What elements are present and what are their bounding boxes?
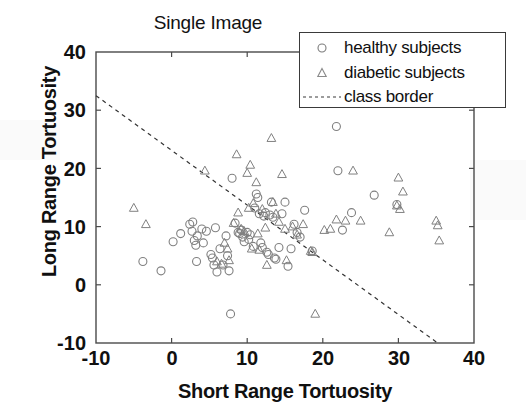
data-point-diabetic <box>267 134 276 142</box>
data-point-healthy <box>264 251 272 259</box>
data-point-healthy <box>192 241 200 249</box>
data-point-diabetic <box>252 178 261 186</box>
data-point-healthy <box>222 232 230 240</box>
data-point-healthy <box>278 210 286 218</box>
legend: healthy subjects diabetic subjects class… <box>299 32 506 108</box>
legend-entry-healthy[interactable]: healthy subjects <box>300 35 505 60</box>
data-point-healthy <box>338 226 346 234</box>
data-point-healthy <box>301 206 309 214</box>
data-point-healthy <box>199 239 207 247</box>
data-point-healthy <box>348 209 356 217</box>
data-point-diabetic <box>261 223 270 231</box>
data-point-healthy <box>275 244 283 252</box>
legend-entry-class-border[interactable]: class border <box>300 84 505 109</box>
data-point-healthy <box>227 310 235 318</box>
legend-label-class-border: class border <box>344 88 433 105</box>
data-point-healthy <box>188 227 196 235</box>
data-point-diabetic <box>232 150 241 158</box>
data-point-healthy <box>225 267 233 275</box>
data-point-healthy <box>198 225 206 233</box>
data-point-diabetic <box>356 216 365 224</box>
data-point-healthy <box>169 238 177 246</box>
data-point-healthy <box>177 230 185 238</box>
data-point-diabetic <box>385 228 394 236</box>
data-point-healthy <box>139 258 147 266</box>
data-point-healthy <box>287 245 295 253</box>
data-point-healthy <box>193 258 201 266</box>
data-point-healthy <box>334 167 342 175</box>
data-point-diabetic <box>341 216 350 224</box>
data-point-diabetic <box>253 229 262 237</box>
data-point-diabetic <box>435 236 444 244</box>
data-point-diabetic <box>349 166 358 174</box>
dashed-line-icon <box>300 84 344 109</box>
data-point-diabetic <box>433 221 442 229</box>
data-points <box>129 122 443 317</box>
data-point-diabetic <box>394 173 403 181</box>
circle-marker-icon <box>300 35 344 60</box>
legend-entry-diabetic[interactable]: diabetic subjects <box>300 60 505 85</box>
data-point-diabetic <box>247 244 256 252</box>
data-point-diabetic <box>275 217 284 225</box>
data-point-diabetic <box>243 168 252 176</box>
data-point-diabetic <box>311 309 320 317</box>
data-point-diabetic <box>262 260 271 268</box>
data-point-healthy <box>281 198 289 206</box>
data-point-healthy <box>257 239 265 247</box>
data-point-healthy <box>213 268 221 276</box>
data-point-diabetic <box>129 203 138 211</box>
data-point-healthy <box>211 224 219 232</box>
data-point-diabetic <box>299 220 308 228</box>
legend-label-diabetic: diabetic subjects <box>344 64 465 81</box>
data-point-diabetic <box>332 215 341 223</box>
legend-label-healthy: healthy subjects <box>344 39 461 56</box>
data-point-diabetic <box>399 187 408 195</box>
data-point-healthy <box>157 267 165 275</box>
data-point-diabetic <box>278 170 287 178</box>
data-point-healthy <box>202 227 210 235</box>
scatter-plot-figure: Single Image Short Range Tortuosity Long… <box>0 0 526 415</box>
data-point-healthy <box>240 238 248 246</box>
data-point-healthy <box>332 122 340 130</box>
data-point-healthy <box>370 191 378 199</box>
data-point-diabetic <box>246 160 255 168</box>
triangle-marker-icon <box>300 60 344 85</box>
data-point-healthy <box>228 174 236 182</box>
data-point-diabetic <box>234 208 243 216</box>
data-point-diabetic <box>142 220 151 228</box>
